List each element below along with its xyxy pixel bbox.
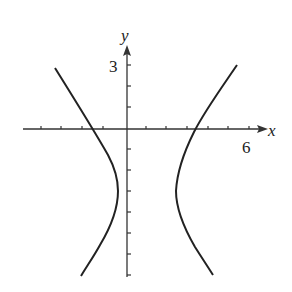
hyperbola-left-branch xyxy=(55,68,118,276)
x-axis-label: x xyxy=(267,121,276,140)
hyperbola-graph: x y 6 3 xyxy=(0,0,292,292)
x-tick-label-6: 6 xyxy=(242,138,251,157)
y-tick-label-3: 3 xyxy=(109,57,118,76)
hyperbola-right-branch xyxy=(176,65,237,275)
y-axis-label: y xyxy=(119,26,129,45)
